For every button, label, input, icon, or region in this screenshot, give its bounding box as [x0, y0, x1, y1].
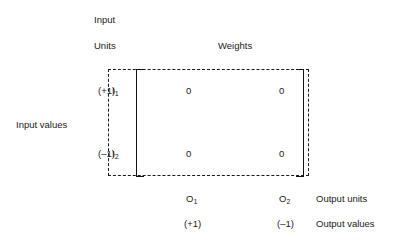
matrix-bracket-right: [296, 69, 304, 177]
input-unit-row-1: I1: [112, 85, 119, 97]
output-value-col-2: (–1): [277, 218, 294, 229]
units-header-label: Units: [94, 40, 116, 51]
weights-header-label: Weights: [218, 40, 252, 51]
input-header-label: Input: [94, 14, 115, 25]
input-values-caption: Input values: [16, 119, 67, 130]
matrix-bracket-left: [136, 69, 144, 177]
output-unit-col-2-subscript: 2: [286, 198, 290, 205]
matrix-cell-r2c2: 0: [279, 148, 284, 159]
output-units-caption: Output units: [316, 193, 367, 204]
output-unit-col-1-subscript: 1: [193, 198, 197, 205]
input-unit-row-1-subscript: 1: [115, 90, 119, 97]
matrix-cell-r1c2: 0: [279, 85, 284, 96]
output-values-caption: Output values: [316, 218, 375, 229]
output-value-col-1: (+1): [184, 218, 201, 229]
matrix-cell-r2c1: 0: [186, 148, 191, 159]
matrix-cell-r1c1: 0: [186, 85, 191, 96]
output-unit-col-1: O1: [186, 193, 197, 205]
input-unit-row-2: I2: [112, 148, 119, 160]
input-unit-row-2-subscript: 2: [115, 153, 119, 160]
output-unit-col-2: O2: [279, 193, 290, 205]
figure-canvas: Input Units Weights Input values (+1) I1…: [0, 0, 408, 248]
